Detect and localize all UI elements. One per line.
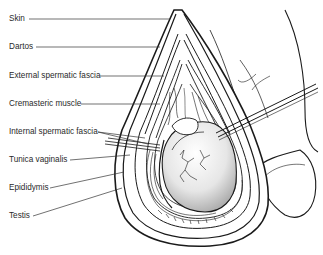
label-skin: Skin [9, 14, 25, 24]
label-epididymis: Epididymis [9, 183, 49, 193]
label-external-spermatic-fascia: External spermatic fascia [9, 71, 100, 81]
diagram-canvas: Skin Dartos External spermatic fascia Cr… [0, 0, 323, 255]
label-testis: Testis [9, 211, 30, 221]
label-dartos: Dartos [9, 42, 33, 52]
label-tunica-vaginalis: Tunica vaginalis [9, 155, 67, 165]
testis-body [162, 122, 236, 212]
label-internal-spermatic-fascia: Internal spermatic fascia [9, 127, 98, 137]
label-cremasteric-muscle: Cremasteric muscle [9, 99, 81, 109]
